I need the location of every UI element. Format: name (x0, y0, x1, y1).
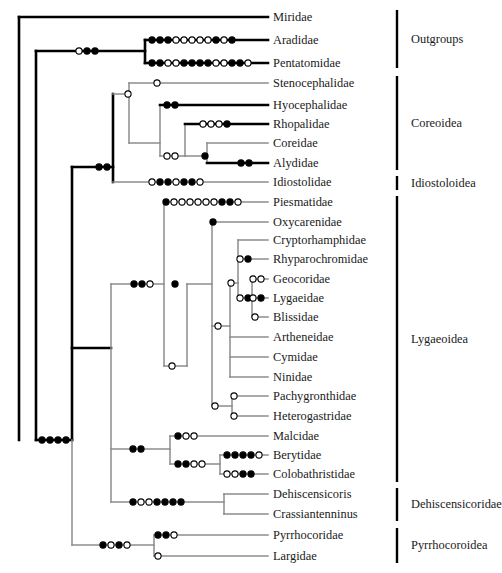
character-state-circle-filled (104, 164, 110, 170)
character-state-circle-filled (172, 281, 178, 287)
character-state-circle-filled (39, 437, 45, 443)
character-state-circle-filled (100, 542, 106, 548)
character-state-circle-filled (238, 160, 244, 166)
character-state-circle-filled (178, 499, 184, 505)
character-state-circle-open (173, 37, 179, 43)
character-state-circle-filled (248, 471, 254, 477)
taxon-label: Rhyparochromidae (273, 253, 368, 265)
character-state-circle-filled (175, 461, 181, 467)
character-state-circle-filled (130, 499, 136, 505)
character-state-circle-open (172, 153, 178, 159)
character-state-circle-filled (157, 60, 163, 66)
taxon-label: Rhopalidae (273, 118, 329, 130)
character-state-circle-filled (172, 102, 178, 108)
character-state-circle-open (124, 542, 130, 548)
character-state-circle-filled (63, 437, 69, 443)
character-state-circle-open (173, 60, 179, 66)
character-state-circle-open (211, 199, 217, 205)
character-state-circle-filled (189, 60, 195, 66)
character-state-circle-filled (164, 102, 170, 108)
character-state-circle-open (108, 542, 114, 548)
character-state-circle-filled (163, 199, 169, 205)
taxon-label: Pachygronthidae (273, 390, 356, 402)
character-state-circle-filled (55, 437, 61, 443)
character-state-circle-open (169, 363, 175, 369)
clade-label: Dehiscensicoridae (411, 497, 502, 512)
character-state-circle-filled (224, 452, 230, 458)
taxon-label: Oxycarenidae (273, 216, 342, 228)
character-state-circle-filled (240, 452, 246, 458)
character-state-circle-open (197, 37, 203, 43)
taxon-label: Lygaeidae (273, 292, 324, 304)
taxon-label: Aradidae (273, 34, 318, 46)
character-state-circle-filled (210, 219, 216, 225)
character-state-circle-open (205, 37, 211, 43)
character-state-circle-open (191, 433, 197, 439)
character-state-circle-filled (240, 471, 246, 477)
character-state-circle-open (216, 121, 222, 127)
character-state-circle-filled (219, 199, 225, 205)
character-state-circle-filled (229, 37, 235, 43)
taxon-label: Colobathristidae (273, 468, 355, 480)
taxon-label: Blissidae (273, 311, 318, 323)
character-state-circle-open (155, 553, 161, 559)
character-state-circle-filled (213, 37, 219, 43)
taxon-label: Largidae (273, 550, 317, 562)
character-state-circle-filled (205, 60, 211, 66)
character-state-circle-open (197, 179, 203, 185)
character-state-circle-open (195, 199, 201, 205)
character-state-circle-filled (237, 60, 243, 66)
taxon-label: Cymidae (273, 351, 318, 363)
taxon-label: Stenocephalidae (273, 77, 354, 89)
character-state-circle-open (171, 532, 177, 538)
taxon-label: Hyocephalidae (273, 99, 347, 111)
character-state-circle-filled (47, 437, 53, 443)
character-state-circle-open (164, 153, 170, 159)
taxon-label: Pentatomidae (273, 57, 340, 69)
clade-label: Lygaeoidea (411, 332, 468, 347)
character-state-circle-open (179, 199, 185, 205)
character-state-circle-filled (139, 281, 145, 287)
character-state-circle-open (200, 121, 206, 127)
character-state-circle-filled (157, 179, 163, 185)
character-state-circle-filled (181, 179, 187, 185)
character-state-circle-filled (232, 452, 238, 458)
character-state-circle-open (250, 276, 256, 282)
character-state-circle-filled (96, 164, 102, 170)
character-state-circle-open (171, 199, 177, 205)
taxon-label: Malcidae (273, 430, 319, 442)
taxon-label: Crassiantenninus (273, 508, 358, 520)
taxon-label: Coreidae (273, 137, 318, 149)
character-state-circle-filled (170, 499, 176, 505)
character-state-circle-filled (149, 60, 155, 66)
character-state-circle-open (165, 60, 171, 66)
character-state-circle-filled (175, 433, 181, 439)
character-state-circle-filled (246, 160, 252, 166)
character-state-circle-open (203, 199, 209, 205)
clade-label: Pyrrhocoroidea (411, 538, 487, 553)
character-state-circle-open (187, 199, 193, 205)
taxon-label: Dehiscensicoris (273, 488, 351, 500)
character-state-circle-open (138, 499, 144, 505)
character-state-circle-filled (116, 542, 122, 548)
character-state-circle-filled (224, 121, 230, 127)
character-state-circle-filled (202, 153, 208, 159)
character-state-circle-filled (197, 60, 203, 66)
character-state-circle-open (183, 433, 189, 439)
taxon-label: Geocoridae (273, 273, 330, 285)
character-state-circle-filled (183, 461, 189, 467)
taxon-label: Cryptorhamphidae (273, 234, 366, 246)
character-state-circle-open (228, 280, 234, 286)
taxon-label: Heterogastridae (273, 410, 351, 422)
character-state-circle-filled (154, 499, 160, 505)
character-state-circle-open (250, 295, 256, 301)
taxon-label: Alydidae (273, 157, 318, 169)
character-state-circle-filled (258, 295, 264, 301)
character-state-circle-open (191, 461, 197, 467)
character-state-circle-open (221, 37, 227, 43)
character-state-circle-open (146, 499, 152, 505)
character-state-circle-open (173, 179, 179, 185)
character-state-circle-filled (245, 256, 251, 262)
character-state-circle-open (147, 281, 153, 287)
